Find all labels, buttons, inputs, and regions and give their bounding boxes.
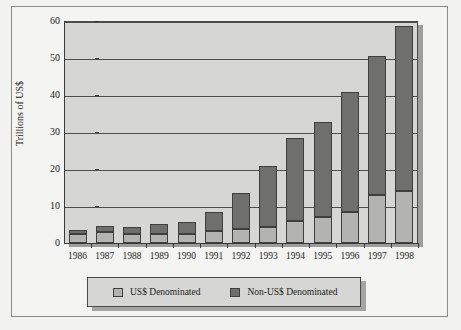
x-axis-tick-labels: 1986198719881989199019911992199319941995… <box>64 250 418 264</box>
bar-group[interactable] <box>314 21 332 243</box>
bar-segment-non-usd[interactable] <box>150 224 168 234</box>
x-axis-tick-label: 1996 <box>335 250 365 262</box>
bar-group[interactable] <box>178 21 196 243</box>
bar-group[interactable] <box>96 21 114 243</box>
x-axis-tick-mark <box>309 243 310 248</box>
x-axis-tick-mark <box>336 243 337 248</box>
bar-segment-usd[interactable] <box>314 217 332 243</box>
chart-legend: US$ Denominated Non-US$ Denominated <box>87 277 361 307</box>
bar-segment-usd[interactable] <box>259 227 277 243</box>
legend-item-non-usd[interactable]: Non-US$ Denominated <box>230 287 337 297</box>
bar-segment-usd[interactable] <box>150 234 168 243</box>
bar-segment-non-usd[interactable] <box>341 92 359 212</box>
bar-segment-usd[interactable] <box>232 229 250 243</box>
bar-group[interactable] <box>368 21 386 243</box>
bar-segment-non-usd[interactable] <box>123 227 141 234</box>
x-axis-tick-mark <box>255 243 256 248</box>
bar-group[interactable] <box>395 21 413 243</box>
x-axis-tick-mark <box>282 243 283 248</box>
bar-segment-usd[interactable] <box>368 195 386 243</box>
bar-segment-non-usd[interactable] <box>178 222 196 234</box>
x-axis-tick-label: 1991 <box>199 250 229 262</box>
bar-group[interactable] <box>123 21 141 243</box>
bar-segment-usd[interactable] <box>205 231 223 243</box>
x-axis-tick-label: 1990 <box>172 250 202 262</box>
y-axis-title: Trillions of US$ <box>14 59 25 169</box>
bar-segment-non-usd[interactable] <box>69 230 87 234</box>
x-axis-tick-label: 1989 <box>144 250 174 262</box>
x-axis-line <box>64 243 419 244</box>
legend-label-non-usd: Non-US$ Denominated <box>247 287 337 297</box>
bar-group[interactable] <box>341 21 359 243</box>
x-axis-tick-mark <box>227 243 228 248</box>
bar-segment-non-usd[interactable] <box>395 26 413 191</box>
legend-swatch-usd <box>113 288 123 297</box>
x-axis-tick-mark <box>418 243 419 248</box>
x-axis-tick-mark <box>118 243 119 248</box>
legend-swatch-non-usd <box>230 288 240 297</box>
bar-segment-usd[interactable] <box>395 191 413 243</box>
y-axis-tick-label: 60 <box>36 16 60 26</box>
bar-group[interactable] <box>259 21 277 243</box>
bar-segment-usd[interactable] <box>96 232 114 243</box>
x-axis-tick-mark <box>364 243 365 248</box>
x-axis-tick-label: 1992 <box>226 250 256 262</box>
bar-segment-non-usd[interactable] <box>286 138 304 221</box>
bar-segment-usd[interactable] <box>123 234 141 243</box>
x-axis-tick-mark <box>173 243 174 248</box>
bar-segment-non-usd[interactable] <box>205 212 223 231</box>
bar-segment-usd[interactable] <box>178 234 196 243</box>
x-axis-tick-label: 1987 <box>90 250 120 262</box>
bar-segment-non-usd[interactable] <box>232 193 250 229</box>
bar-segment-non-usd[interactable] <box>368 56 386 195</box>
legend-item-usd[interactable]: US$ Denominated <box>113 287 200 297</box>
x-axis-tick-label: 1988 <box>117 250 147 262</box>
x-axis-tick-mark <box>200 243 201 248</box>
x-axis-tick-label: 1995 <box>308 250 338 262</box>
bar-segment-non-usd[interactable] <box>314 122 332 217</box>
bar-segment-usd[interactable] <box>286 221 304 243</box>
x-axis-tick-mark <box>391 243 392 248</box>
legend-label-usd: US$ Denominated <box>130 287 200 297</box>
bar-segment-usd[interactable] <box>69 234 87 243</box>
y-axis-tick-label: 20 <box>36 164 60 174</box>
x-axis-tick-label: 1998 <box>389 250 419 262</box>
bar-series-container <box>64 21 418 243</box>
y-axis-tick-label: 50 <box>36 53 60 63</box>
y-axis-tick-label: 30 <box>36 127 60 137</box>
y-axis-tick-label: 40 <box>36 90 60 100</box>
y-axis-tick-label: 10 <box>36 201 60 211</box>
x-axis-tick-mark <box>91 243 92 248</box>
y-axis-tick-label: 0 <box>36 238 60 248</box>
y-axis-tick-mark <box>95 243 99 244</box>
bar-group[interactable] <box>69 21 87 243</box>
x-axis-tick-label: 1994 <box>280 250 310 262</box>
bar-group[interactable] <box>232 21 250 243</box>
x-axis-tick-label: 1993 <box>253 250 283 262</box>
x-axis-tick-mark <box>146 243 147 248</box>
bar-segment-usd[interactable] <box>341 212 359 243</box>
bar-segment-non-usd[interactable] <box>96 226 114 233</box>
chart-figure: Trillions of US$ 0102030405060 198619871… <box>0 0 461 330</box>
bar-segment-non-usd[interactable] <box>259 166 277 227</box>
bar-group[interactable] <box>205 21 223 243</box>
x-axis-tick-label: 1986 <box>63 250 93 262</box>
bar-group[interactable] <box>286 21 304 243</box>
y-axis-tick-labels: 0102030405060 <box>34 0 60 330</box>
bar-group[interactable] <box>150 21 168 243</box>
x-axis-tick-label: 1997 <box>362 250 392 262</box>
